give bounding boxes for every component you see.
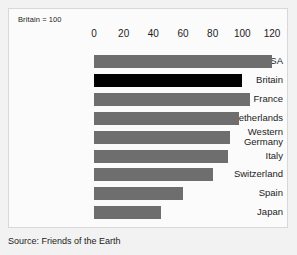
category-label: Switzerland [202, 169, 287, 180]
plot-area: USABritainFranceThe NetherlandsWestern G… [9, 45, 287, 227]
bar-row: USA [9, 55, 287, 68]
bar-row: Britain [9, 74, 287, 87]
bar [94, 187, 183, 200]
bar-row: Switzerland [9, 168, 287, 181]
bar [94, 112, 239, 125]
bar [94, 74, 242, 87]
bar [94, 93, 250, 106]
bar [94, 206, 161, 219]
bar [94, 131, 230, 144]
bar-row: France [9, 93, 287, 106]
chart-card: Britain = 100 020406080100120 USABritain… [8, 8, 288, 228]
bar [94, 168, 213, 181]
source-caption: Source: Friends of the Earth [8, 236, 121, 246]
x-axis-tick-label: 120 [264, 27, 281, 41]
bar-row: Western Germany [9, 131, 287, 144]
x-axis-tick-label: 80 [207, 27, 218, 41]
x-axis-tick-label: 100 [234, 27, 251, 41]
x-axis-tick-label: 0 [91, 27, 97, 41]
x-axis-tick-label: 20 [118, 27, 129, 41]
x-axis-tick-label: 40 [148, 27, 159, 41]
x-axis: 020406080100120 [9, 27, 287, 41]
bar-row: Spain [9, 187, 287, 200]
x-axis-tick-label: 60 [177, 27, 188, 41]
bar [94, 55, 272, 68]
bar-row: Japan [9, 206, 287, 219]
bar-row: Italy [9, 150, 287, 163]
bar [94, 150, 228, 163]
bar-row: The Netherlands [9, 112, 287, 125]
chart-note: Britain = 100 [18, 15, 62, 24]
category-label: Spain [202, 188, 287, 199]
category-label: Japan [202, 207, 287, 218]
